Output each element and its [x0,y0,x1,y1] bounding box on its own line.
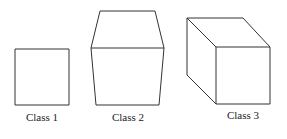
class-3-cube [187,18,270,104]
class-2-prism [91,11,164,105]
class-2-label: Class 2 [112,111,144,123]
class-3-label: Class 3 [227,109,259,121]
class-1-square [15,49,69,105]
class-1-label: Class 1 [26,111,58,123]
